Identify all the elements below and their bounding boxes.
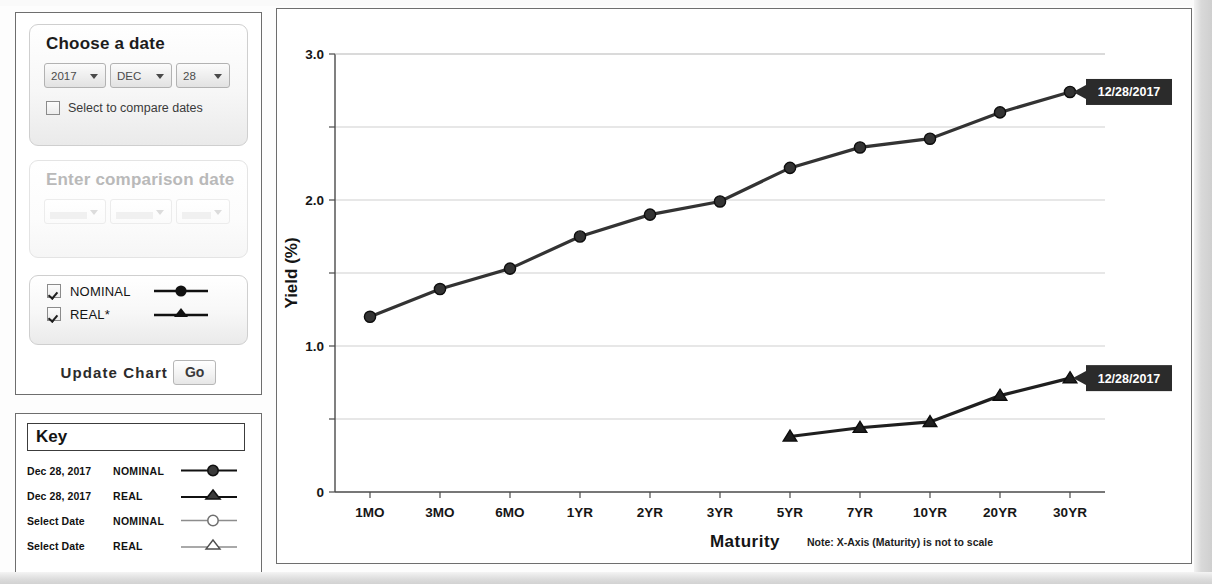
- day-select[interactable]: 28: [176, 63, 230, 88]
- chart-svg: 01.02.03.01MO3MO6MO1YR2YR3YR5YR7YR10YR20…: [277, 9, 1191, 563]
- series-end-callout: 12/28/2017: [1073, 365, 1172, 391]
- chevron-down-icon: [214, 74, 222, 79]
- series-end-callout: 12/28/2017: [1073, 79, 1172, 105]
- y-axis-tick-label: 3.0: [305, 47, 324, 62]
- key-row-series: NOMINAL: [113, 515, 179, 527]
- month-select-value: DEC: [111, 70, 141, 82]
- x-axis-tick-label: 10YR: [913, 505, 947, 520]
- chart-panel: 01.02.03.01MO3MO6MO1YR2YR3YR5YR7YR10YR20…: [276, 8, 1192, 564]
- series-toggle-nominal[interactable]: NOMINAL: [30, 276, 247, 299]
- series-nominal: [364, 86, 1075, 322]
- real-marker-icon: [152, 306, 210, 322]
- chevron-down-icon: [90, 74, 98, 79]
- filled-triangle-marker-icon: [179, 488, 239, 503]
- key-row: Select Date REAL: [27, 533, 249, 558]
- callout-label: 12/28/2017: [1098, 372, 1161, 386]
- y-axis-tick-label: 2.0: [305, 193, 324, 208]
- key-row: Select Date NOMINAL: [27, 508, 249, 533]
- x-axis-tick-label: 7YR: [847, 505, 874, 520]
- key-row-date: Select Date: [27, 515, 113, 527]
- y-axis-tick-label: 1.0: [305, 339, 324, 354]
- y-axis-tick-label: 0: [316, 485, 324, 500]
- key-row-series: NOMINAL: [113, 465, 179, 477]
- key-panel: Key Dec 28, 2017 NOMINAL Dec 28, 2017 R: [15, 413, 262, 573]
- key-row: Dec 28, 2017 NOMINAL: [27, 458, 249, 483]
- x-axis-tick-label: 6MO: [495, 505, 524, 520]
- key-row-date: Dec 28, 2017: [27, 465, 113, 477]
- series-real: [783, 372, 1077, 441]
- key-rows: Dec 28, 2017 NOMINAL Dec 28, 2017 REAL: [27, 458, 249, 558]
- month-select[interactable]: DEC: [110, 63, 172, 88]
- real-checkbox[interactable]: [47, 307, 61, 321]
- nominal-checkbox[interactable]: [47, 284, 61, 298]
- key-row-date: Select Date: [27, 540, 113, 552]
- y-axis-title: Yield (%): [282, 237, 301, 308]
- scan-edge-bottom: [0, 572, 1212, 584]
- compare-dates-label: Select to compare dates: [68, 101, 203, 115]
- compare-dates-row[interactable]: Select to compare dates: [30, 88, 247, 115]
- chevron-down-icon: [156, 210, 164, 215]
- nominal-label: NOMINAL: [70, 284, 152, 299]
- x-axis-tick-label: 20YR: [983, 505, 1017, 520]
- x-axis-tick-label: 3MO: [425, 505, 454, 520]
- comparison-date-title: Enter comparison date: [30, 161, 247, 190]
- open-circle-marker-icon: [179, 513, 239, 528]
- choose-date-panel: Choose a date 2017 DEC 28: [29, 24, 248, 146]
- controls-panel: Choose a date 2017 DEC 28: [15, 12, 262, 395]
- choose-date-selects: 2017 DEC 28: [30, 54, 247, 88]
- key-title: Key: [28, 427, 67, 447]
- disabled-field-fill: [50, 212, 87, 219]
- scan-edge-right: [1194, 0, 1212, 584]
- day-select-value: 28: [177, 70, 196, 82]
- compare-dates-checkbox[interactable]: [46, 101, 60, 115]
- series-toggle-panel: NOMINAL REAL*: [29, 275, 248, 345]
- x-axis-tick-label: 3YR: [707, 505, 734, 520]
- x-axis-tick-label: 2YR: [637, 505, 664, 520]
- yield-curve-chart: 01.02.03.01MO3MO6MO1YR2YR3YR5YR7YR10YR20…: [277, 9, 1191, 563]
- year-select[interactable]: 2017: [44, 63, 106, 88]
- x-axis-tick-label: 5YR: [777, 505, 804, 520]
- filled-circle-marker-icon: [179, 463, 239, 478]
- comparison-year-select: [44, 199, 106, 224]
- page-root: Choose a date 2017 DEC 28: [0, 0, 1212, 584]
- x-axis-title: Maturity: [710, 532, 780, 551]
- callout-label: 12/28/2017: [1098, 85, 1161, 99]
- key-row: Dec 28, 2017 REAL: [27, 483, 249, 508]
- update-chart-label: Update Chart: [61, 364, 173, 381]
- comparison-day-select: [176, 199, 230, 224]
- disabled-field-fill: [182, 212, 211, 219]
- real-label: REAL*: [70, 307, 152, 322]
- key-row-date: Dec 28, 2017: [27, 490, 113, 502]
- scan-edge-top: [0, 0, 1212, 6]
- disabled-field-fill: [116, 212, 153, 219]
- series-toggle-real[interactable]: REAL*: [30, 299, 247, 322]
- x-axis-tick-label: 1MO: [355, 505, 384, 520]
- x-axis-tick-label: 30YR: [1053, 505, 1087, 520]
- key-title-box: Key: [27, 423, 245, 451]
- nominal-marker-icon: [152, 283, 210, 299]
- chevron-down-icon: [90, 210, 98, 215]
- key-row-series: REAL: [113, 490, 179, 502]
- choose-date-title: Choose a date: [30, 25, 247, 54]
- chevron-down-icon: [156, 74, 164, 79]
- x-axis-tick-label: 1YR: [567, 505, 594, 520]
- go-button[interactable]: Go: [173, 360, 216, 385]
- key-row-series: REAL: [113, 540, 179, 552]
- chevron-down-icon: [214, 210, 222, 215]
- year-select-value: 2017: [45, 70, 77, 82]
- update-chart-row: Update Chart Go: [16, 360, 261, 385]
- comparison-date-panel: Enter comparison date: [29, 160, 248, 258]
- comparison-date-selects: [30, 190, 247, 224]
- comparison-month-select: [110, 199, 172, 224]
- open-triangle-marker-icon: [179, 538, 239, 553]
- x-axis-note: Note: X-Axis (Maturity) is not to scale: [807, 536, 993, 548]
- left-control-column: Choose a date 2017 DEC 28: [15, 12, 262, 572]
